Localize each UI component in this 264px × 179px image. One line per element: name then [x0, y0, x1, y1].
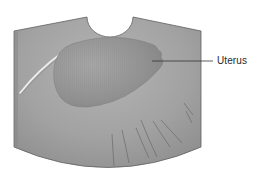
uterus-label: Uterus: [217, 54, 247, 67]
ultrasound-diagram: [0, 0, 264, 179]
field-left-shadow: [14, 31, 18, 149]
